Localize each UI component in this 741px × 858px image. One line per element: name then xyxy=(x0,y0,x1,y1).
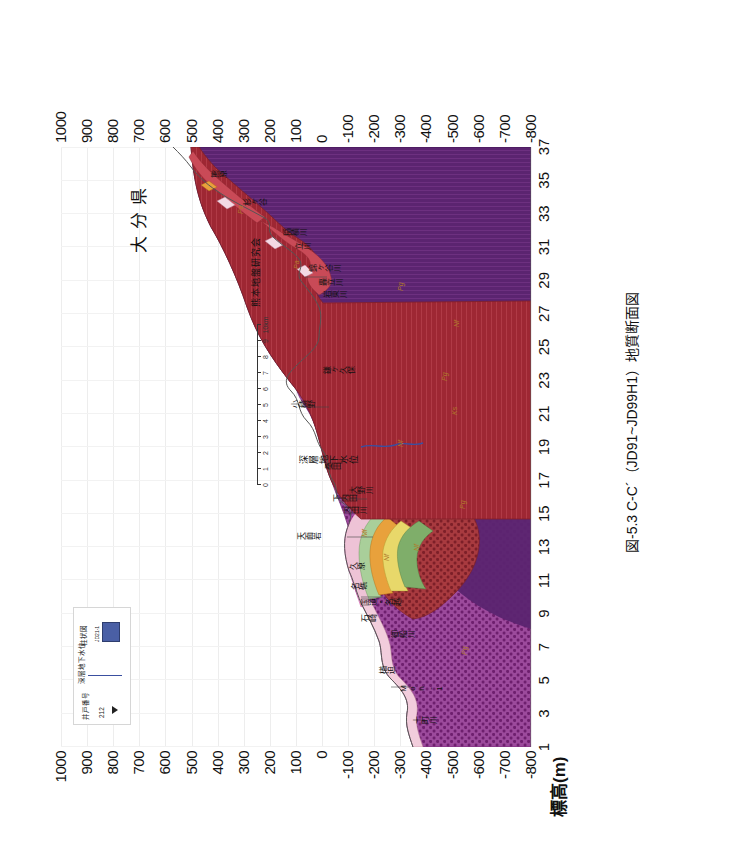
place-name-label: 国道・名越 xyxy=(361,599,401,607)
y-axis-tick: -800 xyxy=(521,751,538,807)
x-axis-tick: 13 xyxy=(535,539,552,556)
y-axis-tick-right: -800 xyxy=(521,87,538,143)
scale-bar-tick-label: 7 xyxy=(262,371,269,375)
column-legend-label: 柱状図 xyxy=(78,625,88,646)
geologic-unit-label: Pa xyxy=(293,260,300,269)
y-axis-tick: -400 xyxy=(417,751,434,807)
scale-bar-tick xyxy=(257,436,261,437)
place-name-label: 内田川 xyxy=(343,507,367,515)
geologic-unit-label: Pa xyxy=(237,205,244,214)
y-axis-tick: 200 xyxy=(260,751,277,807)
scale-bar-tick xyxy=(257,484,261,485)
y-axis-tick: 0 xyxy=(313,751,330,807)
y-axis-tick: -600 xyxy=(469,751,486,807)
y-axis-tick: -100 xyxy=(339,751,356,807)
scale-bar-tick-label: 9 xyxy=(262,339,269,343)
x-axis-tick: 25 xyxy=(535,339,552,356)
scale-bar-tick-label: 10km xyxy=(262,316,269,333)
y-axis-tick-right: -600 xyxy=(469,87,486,143)
scale-bar-tick-label: 5 xyxy=(262,403,269,407)
place-name-label: 久原 xyxy=(349,563,365,571)
place-name-label: 錦ヶ谷川 xyxy=(309,265,341,273)
x-axis-tick: 9 xyxy=(535,610,552,618)
x-axis-tick: 35 xyxy=(535,172,552,189)
y-axis-tick-right: -300 xyxy=(391,87,408,143)
geologic-unit-label: Nf xyxy=(383,554,390,561)
x-axis-tick: 21 xyxy=(535,405,552,422)
y-axis-tick: 900 xyxy=(78,751,95,807)
geologic-unit-label: Mf xyxy=(361,529,368,537)
y-axis-tick-right: -200 xyxy=(365,87,382,143)
well-number-value: 212 xyxy=(98,707,105,718)
geologic-unit-label: Ks xyxy=(451,407,458,415)
y-axis-tick: 400 xyxy=(208,751,225,807)
column-swatch xyxy=(102,622,120,642)
geologic-cross-section-figure: 十町川Mon-1楢迫御船川石崎国道・名越名礁久原天面岩内田川下内田大野川桑田小積… xyxy=(0,0,741,858)
x-axis-tick: 27 xyxy=(535,305,552,322)
scale-bar-tick xyxy=(257,452,261,453)
scale-bar-tick-label: 2 xyxy=(262,451,269,455)
y-axis-tick-right: 1000 xyxy=(52,87,69,143)
y-axis-tick-right: 900 xyxy=(78,87,95,143)
geologic-unit-label: Nf xyxy=(397,440,404,447)
y-axis-tick-right: 500 xyxy=(182,87,199,143)
place-name-label: 杉ヶ谷 xyxy=(243,199,267,207)
x-axis-tick: 19 xyxy=(535,439,552,456)
place-name-label: 大野川 xyxy=(349,487,373,495)
scale-bar-tick xyxy=(257,356,261,357)
x-axis-tick: 17 xyxy=(535,472,552,489)
x-axis-tick: 33 xyxy=(535,205,552,222)
geologic-unit-label: Nf xyxy=(413,544,420,551)
y-axis-tick: 100 xyxy=(286,751,303,807)
figure-caption: 図-5.3 C-C´（JD91~JD99H1）地質断面図 xyxy=(621,292,641,553)
geologic-unit-label: Pg xyxy=(459,500,466,509)
y-axis-tick: -500 xyxy=(443,751,460,807)
x-axis-tick: 3 xyxy=(535,710,552,718)
scale-bar-tick-label: 4 xyxy=(262,419,269,423)
scale-bar-tick xyxy=(257,420,261,421)
x-axis-tick: 5 xyxy=(535,676,552,684)
scale-bar-tick xyxy=(257,372,261,373)
y-axis-tick-right: -700 xyxy=(495,87,512,143)
y-axis-tick: 600 xyxy=(156,751,173,807)
plot-area: 十町川Mon-1楢迫御船川石崎国道・名越名礁久原天面岩内田川下内田大野川桑田小積… xyxy=(61,147,531,747)
y-axis-tick-right: -400 xyxy=(417,87,434,143)
place-name-label: 御船川 xyxy=(391,631,415,639)
place-name-label: 楢迫 xyxy=(379,667,395,675)
groundwater-legend-label: 深層地下水位 xyxy=(76,642,86,684)
y-axis-tick: 800 xyxy=(104,751,121,807)
y-axis-tick-right: 300 xyxy=(234,87,251,143)
x-axis-tick: 15 xyxy=(535,505,552,522)
geologic-unit-label: Pg xyxy=(441,372,448,381)
scale-bar-tick xyxy=(257,404,261,405)
place-name-label: 岩東川 xyxy=(323,291,347,299)
y-axis-tick-right: 800 xyxy=(104,87,121,143)
y-axis-tick: 300 xyxy=(234,751,251,807)
place-name-label: 鎌ヶ久保 xyxy=(323,367,355,375)
y-axis-tick-right: 100 xyxy=(286,87,303,143)
x-axis-tick: 31 xyxy=(535,239,552,256)
x-axis-tick: 29 xyxy=(535,272,552,289)
y-axis-tick-right: 700 xyxy=(130,87,147,143)
y-axis-tick-right: 600 xyxy=(156,87,173,143)
geologic-unit-label: Pg xyxy=(397,282,404,291)
y-axis-title: 標高(m) xyxy=(545,757,570,817)
place-name-label: 立川 xyxy=(295,243,311,251)
groundwater-legend-line xyxy=(88,675,122,676)
place-name-label: 名礁 xyxy=(351,583,367,591)
y-axis-tick-right: -500 xyxy=(443,87,460,143)
x-axis-tick: 23 xyxy=(535,372,552,389)
place-name-label: 小積野 xyxy=(291,401,315,409)
y-axis-tick: -300 xyxy=(391,751,408,807)
prefecture-label: 大分県 xyxy=(125,181,150,253)
x-axis-tick: 1 xyxy=(535,743,552,751)
place-name-label: 熊原 xyxy=(211,171,227,179)
scale-bar-tick-label: 3 xyxy=(262,435,269,439)
place-name-label: Mon-1 xyxy=(399,685,444,693)
place-name-label: 下内田 xyxy=(333,495,357,503)
y-axis-tick-right: -100 xyxy=(339,87,356,143)
groundwater-level-label: 深層地下水位 xyxy=(299,452,359,465)
place-name-label: 稲積川 xyxy=(283,229,307,237)
credit-label: 熊本地盤研究会 xyxy=(249,237,262,307)
x-axis-tick: 37 xyxy=(535,139,552,156)
